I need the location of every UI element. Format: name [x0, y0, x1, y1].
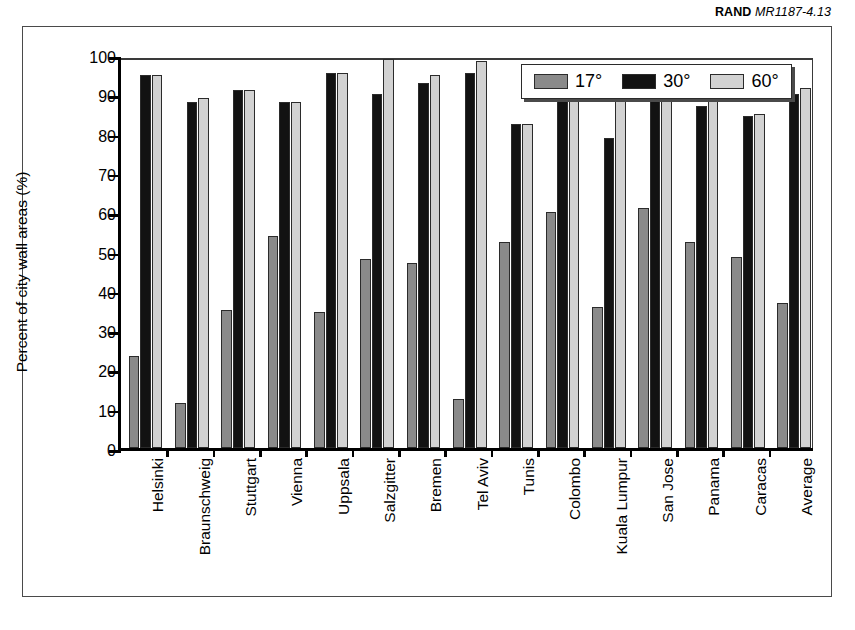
bar-group [128, 58, 163, 448]
bar-60deg [615, 84, 626, 448]
bar-30deg [233, 90, 244, 448]
bar-group [267, 58, 302, 448]
x-axis-label: Tunis [520, 458, 538, 495]
bar-group [359, 58, 394, 448]
figure-credit-id: MR1187-4.13 [755, 5, 831, 19]
bar-30deg [418, 83, 429, 448]
x-axis-label: Tel Aviv [474, 458, 492, 510]
chart-legend: 17°30°60° [521, 64, 792, 99]
bar-60deg [152, 75, 163, 448]
bar-group [684, 58, 719, 448]
bar-60deg [754, 114, 765, 448]
plot-area: 0102030405060708090100 [118, 58, 813, 451]
bar-30deg [465, 73, 476, 448]
x-axis-label: Panama [705, 458, 723, 516]
bar-60deg [476, 61, 487, 448]
bar-17deg [129, 356, 140, 448]
bar-30deg [604, 138, 615, 448]
bar-17deg [685, 242, 696, 448]
bar-60deg [337, 73, 348, 448]
x-axis-label: Vienna [288, 458, 306, 506]
y-tick-label: 40 [98, 285, 116, 303]
legend-item-60deg: 60° [710, 71, 778, 92]
bar-17deg [638, 208, 649, 448]
bar-group [498, 58, 533, 448]
bar-30deg [789, 94, 800, 448]
y-tick-label: 20 [98, 363, 116, 381]
bar-30deg [326, 73, 337, 448]
x-axis-label: Colombo [566, 458, 584, 520]
bar-30deg [650, 79, 661, 448]
bar-group [220, 58, 255, 448]
bar-60deg [708, 94, 719, 448]
x-axis-label: Bremen [427, 458, 445, 512]
bar-60deg [800, 88, 811, 448]
bar-group [545, 58, 580, 448]
y-tick-label: 90 [98, 88, 116, 106]
bar-17deg [221, 310, 232, 448]
bar-17deg [499, 242, 510, 448]
bar-30deg [140, 75, 151, 448]
x-tick-mark [352, 448, 355, 457]
y-axis-title: Percent of city wall areas (%) [13, 122, 31, 422]
bar-30deg [511, 124, 522, 448]
bar-17deg [731, 257, 742, 448]
x-tick-mark [444, 448, 447, 457]
bar-17deg [453, 399, 464, 448]
y-tick-label: 70 [98, 167, 116, 185]
bar-group [637, 58, 672, 448]
bar-30deg [743, 116, 754, 448]
x-axis-label: Kuala Lumpur [613, 458, 631, 555]
y-tick-label: 0 [107, 442, 116, 460]
legend-label: 17° [575, 71, 602, 92]
y-tick-label: 30 [98, 324, 116, 342]
x-tick-mark [722, 448, 725, 457]
bar-60deg [244, 90, 255, 448]
x-tick-mark [630, 448, 633, 457]
figure-credit: RAND MR1187-4.13 [715, 5, 831, 19]
x-tick-mark [259, 448, 262, 457]
bar-17deg [314, 312, 325, 448]
figure-credit-org: RAND [715, 5, 752, 19]
bar-17deg [407, 263, 418, 448]
x-tick-mark [166, 448, 169, 457]
x-axis-label: Stuttgart [242, 458, 260, 517]
legend-item-30deg: 30° [622, 71, 690, 92]
bar-group [776, 58, 811, 448]
legend-swatch [534, 74, 568, 89]
x-axis-label: Helsinki [149, 458, 167, 512]
x-tick-mark [676, 448, 679, 457]
x-axis-label: Uppsala [335, 458, 353, 515]
bar-17deg [268, 236, 279, 448]
x-tick-mark [583, 448, 586, 457]
bar-17deg [175, 403, 186, 448]
legend-swatch [710, 74, 744, 89]
bar-group [313, 58, 348, 448]
bar-17deg [777, 303, 788, 448]
bar-17deg [360, 259, 371, 448]
bar-60deg [661, 79, 672, 448]
x-axis-label: Average [798, 458, 816, 515]
figure-frame: Percent of city wall areas (%) 010203040… [22, 26, 832, 597]
bar-17deg [546, 212, 557, 448]
x-tick-mark [398, 448, 401, 457]
bar-60deg [430, 75, 441, 448]
x-axis-label: Salzgitter [381, 458, 399, 523]
bar-60deg [198, 98, 209, 448]
x-axis-label: San Jose [659, 458, 677, 523]
bar-30deg [557, 84, 568, 448]
bar-group [730, 58, 765, 448]
x-tick-mark [537, 448, 540, 457]
legend-item-17deg: 17° [534, 71, 602, 92]
bars-layer [121, 58, 813, 448]
bar-group [452, 58, 487, 448]
x-tick-mark [305, 448, 308, 457]
legend-swatch [622, 74, 656, 89]
bar-60deg [522, 124, 533, 448]
y-tick-label: 10 [98, 403, 116, 421]
x-tick-mark [213, 448, 216, 457]
bar-60deg [291, 102, 302, 448]
legend-label: 60° [751, 71, 778, 92]
x-tick-mark [491, 448, 494, 457]
bar-30deg [696, 106, 707, 448]
